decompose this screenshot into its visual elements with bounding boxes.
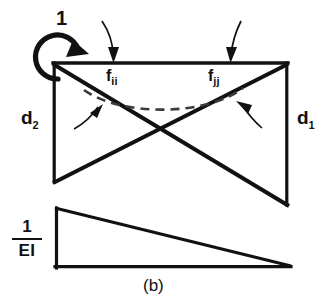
- unit-moment-arc-icon: [36, 35, 89, 79]
- figure-caption: (b): [143, 277, 164, 294]
- leader-arrow-right-icon: [236, 101, 262, 128]
- d2-subscript: 2: [33, 119, 39, 131]
- triangle-hypotenuse-line: [55, 208, 291, 266]
- fjj-subscript: jj: [213, 75, 220, 87]
- displacement-d1-label: d1: [297, 108, 315, 131]
- figure-b-container: 1 d2 d1 fii fjj 1 EI (b): [0, 0, 328, 307]
- fii-subscript: ii: [111, 75, 118, 87]
- load-arrow-right-icon: [226, 21, 241, 63]
- fraction-bar: [12, 238, 42, 240]
- displacement-d2-label: d2: [21, 108, 39, 131]
- ei-numerator: 1: [19, 218, 34, 237]
- one-over-ei-label: 1 EI: [12, 218, 42, 260]
- structural-diagram-svg: [0, 0, 328, 307]
- flexibility-fii-label: fii: [106, 68, 118, 87]
- load-arrow-left-icon: [102, 21, 119, 63]
- unit-moment-label: 1: [56, 8, 67, 28]
- d1-subscript: 1: [309, 119, 315, 131]
- moment-diagram-triangle: [55, 208, 291, 268]
- flexibility-fjj-label: fjj: [208, 68, 220, 87]
- ei-denominator: EI: [15, 241, 38, 260]
- upper-frame-group: [53, 63, 289, 206]
- diagonal-descending-line: [53, 64, 289, 206]
- leader-arrow-left-icon: [74, 104, 103, 129]
- diagonal-ascending-line: [53, 64, 288, 183]
